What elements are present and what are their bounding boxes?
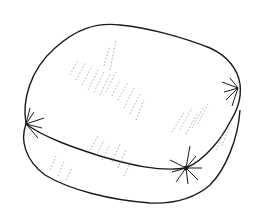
tuft-right (222, 78, 238, 106)
cushion-top-outline (25, 24, 240, 169)
tuft-front (170, 146, 202, 184)
cushion-illustration (0, 0, 261, 221)
fabric-texture (50, 40, 230, 180)
illustration-canvas (0, 0, 261, 221)
